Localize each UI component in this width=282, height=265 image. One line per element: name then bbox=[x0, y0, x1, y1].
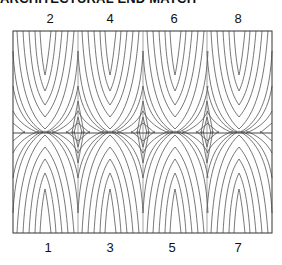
panel-label-bottom-4: 7 bbox=[234, 240, 241, 255]
panel-label-bottom-1: 1 bbox=[44, 240, 51, 255]
grain-bottom-row bbox=[13, 131, 272, 233]
veneer-match-diagram bbox=[0, 0, 282, 265]
panel-label-bottom-2: 3 bbox=[106, 240, 113, 255]
grain-top-row bbox=[13, 31, 272, 133]
panel-label-bottom-3: 5 bbox=[168, 240, 175, 255]
